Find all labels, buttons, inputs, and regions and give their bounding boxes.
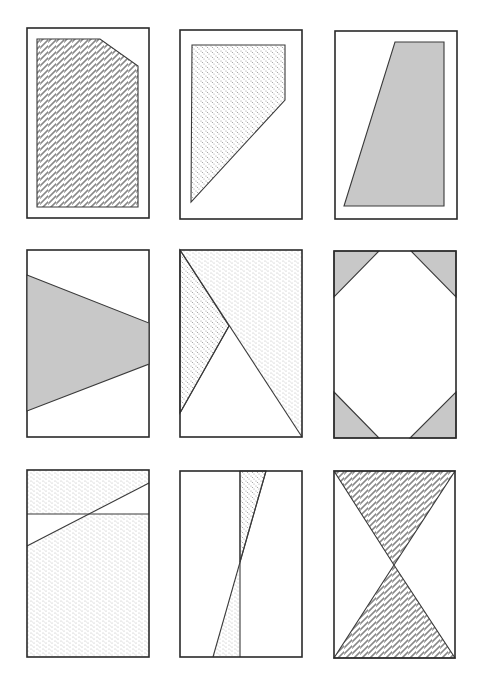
figure-canvas [0,0,481,688]
panel-6 [334,251,456,438]
panel-1-shape [37,39,138,207]
panel-4 [27,250,149,437]
panel-6-corner-bl [334,392,379,438]
panel-9 [334,471,455,658]
panel-6-corner-br [410,392,456,438]
panel-2-shape [191,45,285,202]
panel-7 [27,470,149,657]
panel-1 [27,28,149,218]
panel-2 [180,30,302,219]
panel-6-corner-tr [411,251,456,297]
panel-9-upper-triangle [334,471,455,565]
panel-6-corner-tl [334,251,379,297]
panel-5 [180,250,302,437]
panel-3-shape [344,42,444,206]
panel-9-lower-triangle [334,565,455,658]
panel-8 [180,471,302,657]
panel-3 [335,31,457,219]
panel-4-shape [27,275,149,411]
